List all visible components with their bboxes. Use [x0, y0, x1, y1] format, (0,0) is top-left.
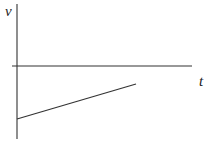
- velocity-line: [17, 84, 136, 119]
- v-axis-label: v: [5, 3, 12, 19]
- t-axis-label: t: [199, 73, 204, 89]
- velocity-time-diagram: v t: [0, 0, 205, 142]
